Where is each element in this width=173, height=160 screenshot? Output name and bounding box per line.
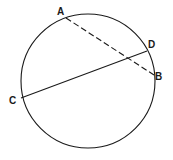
label-a: A [57,6,64,17]
circle-chord-diagram: A B C D [0,0,173,160]
chord-ab-dashed [66,18,154,75]
label-b: B [155,71,162,82]
chord-cd-solid [21,51,147,98]
label-c: C [9,95,16,106]
label-d: D [148,39,155,50]
circle [21,14,155,148]
